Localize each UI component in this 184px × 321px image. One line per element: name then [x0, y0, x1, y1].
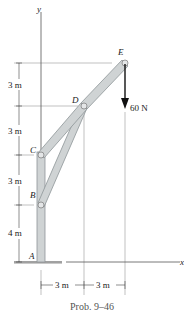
- pin-B: [38, 202, 44, 208]
- x-axis-label: x: [179, 257, 184, 267]
- pin-D: [81, 103, 87, 109]
- dim-AtoD-horizontal: 3 m: [55, 280, 69, 290]
- dim-DtoC: 3 m: [8, 126, 22, 136]
- dim-CtoB: 3 m: [8, 176, 22, 186]
- label-A: A: [28, 251, 35, 261]
- label-C: C: [30, 145, 37, 155]
- truss-diagram: y x 60 N E D C B A 3 m 3 m 3 m: [0, 0, 184, 321]
- member-DE: [81, 60, 128, 109]
- label-B: B: [30, 190, 36, 200]
- dim-EtoD: 3 m: [8, 80, 22, 90]
- figure-caption: Prob. 9–46: [70, 301, 114, 312]
- dim-BtoA: 4 m: [8, 228, 22, 238]
- pin-C: [38, 152, 44, 158]
- members: [37, 60, 128, 262]
- y-axis-label: y: [36, 4, 41, 14]
- dim-DtoE-horizontal: 3 m: [96, 280, 110, 290]
- load-label: 60 N: [130, 103, 148, 113]
- label-D: D: [71, 95, 79, 105]
- label-E: E: [117, 47, 124, 57]
